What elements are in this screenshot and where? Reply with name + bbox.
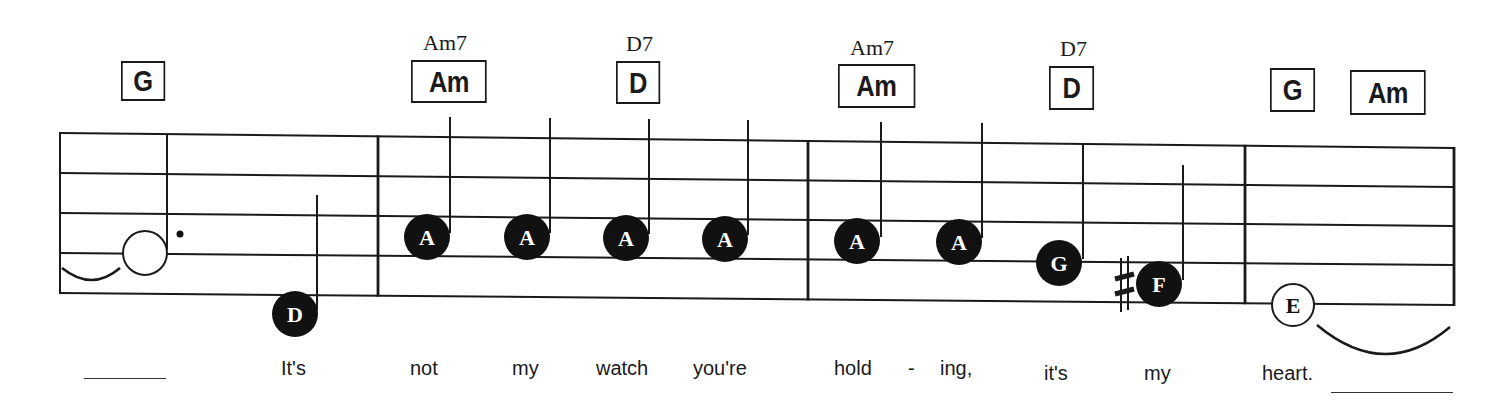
note-d-notehead: D xyxy=(272,291,318,337)
lyric-syllable: heart. xyxy=(1262,362,1313,385)
chord-box-g-1: G xyxy=(121,61,165,101)
chord-box-g-2: G xyxy=(1270,68,1315,112)
note-f-notehead: F xyxy=(1136,261,1182,307)
note-letter: A xyxy=(849,229,865,254)
notes: DAAAAAAGFE xyxy=(123,214,1314,337)
note-letter: A xyxy=(951,230,967,255)
note-stems xyxy=(167,117,1183,310)
note-e-notehead: E xyxy=(1272,284,1314,326)
chord-extension-am-2: Am7 xyxy=(850,35,894,61)
lyric-syllable: you're xyxy=(693,357,747,380)
note-letter: G xyxy=(1050,251,1067,276)
note-a-notehead: A xyxy=(702,216,748,262)
chord-extension-d-2: D7 xyxy=(1060,36,1087,62)
note-a-notehead: A xyxy=(603,215,649,261)
lyric-extender-line xyxy=(1331,392,1453,393)
note-a-notehead: A xyxy=(404,214,450,260)
note-letter: A xyxy=(419,225,435,250)
lyric-syllable: not xyxy=(410,357,438,380)
note-letter: A xyxy=(618,226,634,251)
note-letter: D xyxy=(287,302,303,327)
tie-tie-out xyxy=(1317,325,1450,354)
note-a-notehead: A xyxy=(504,214,550,260)
lyric-syllable: it's xyxy=(1044,362,1068,385)
lyric-syllable: ing, xyxy=(940,357,972,380)
note-letter: A xyxy=(519,225,535,250)
lyric-syllable: - xyxy=(908,357,915,380)
augmentation-dot xyxy=(177,231,184,238)
chord-extension-am-1: Am7 xyxy=(423,30,467,56)
ties xyxy=(62,268,1450,354)
chord-box-am-3: Am xyxy=(1350,70,1426,115)
tie-tie-in xyxy=(62,268,120,280)
lyric-extender-line xyxy=(84,378,166,379)
chord-box-d-1: D xyxy=(616,61,660,104)
lyric-syllable: hold xyxy=(834,357,872,380)
chord-box-am-2: Am xyxy=(838,64,915,108)
note-letter: A xyxy=(717,227,733,252)
lyric-syllable: watch xyxy=(596,357,648,380)
chord-box-am-1: Am xyxy=(411,60,487,103)
music-staff-score: DAAAAAAGFE xyxy=(0,0,1504,415)
note-letter: E xyxy=(1286,293,1301,318)
sharp-accidental-icon xyxy=(1115,256,1134,312)
lyric-syllable: my xyxy=(1144,362,1171,385)
note-a-notehead: A xyxy=(936,219,982,265)
note-half-notehead xyxy=(123,231,167,275)
chord-box-d-2: D xyxy=(1049,66,1094,110)
note-a-notehead: A xyxy=(834,218,880,264)
lyric-syllable: my xyxy=(512,357,539,380)
note-g-notehead: G xyxy=(1036,240,1082,286)
note-letter: F xyxy=(1152,272,1165,297)
lyric-syllable: It's xyxy=(281,357,306,380)
chord-extension-d-1: D7 xyxy=(626,31,653,57)
